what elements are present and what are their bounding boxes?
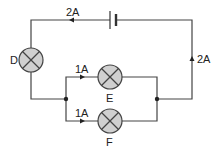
current-top-label: 2A	[66, 6, 80, 18]
circuit-diagram: 2A 2A 1A 1A D E F	[0, 0, 217, 153]
circuit-svg: 2A 2A 1A 1A D E F	[0, 0, 217, 153]
lamp-f-icon	[98, 109, 122, 133]
battery-icon	[110, 11, 116, 29]
current-f-label: 1A	[75, 107, 89, 119]
lamp-d-icon	[19, 48, 43, 72]
current-e-label: 1A	[75, 63, 89, 75]
lamp-e-icon	[98, 65, 122, 89]
arrow-right-icon	[80, 75, 85, 80]
arrow-right-icon	[80, 119, 85, 124]
current-right-label: 2A	[197, 53, 211, 65]
lamp-e-label: E	[106, 92, 113, 104]
arrow-left-icon	[69, 18, 74, 23]
junction-left	[64, 97, 68, 101]
arrow-up-icon	[190, 56, 195, 61]
lamp-f-label: F	[106, 136, 113, 148]
lamp-d-label: D	[10, 54, 18, 66]
junction-right	[155, 97, 159, 101]
